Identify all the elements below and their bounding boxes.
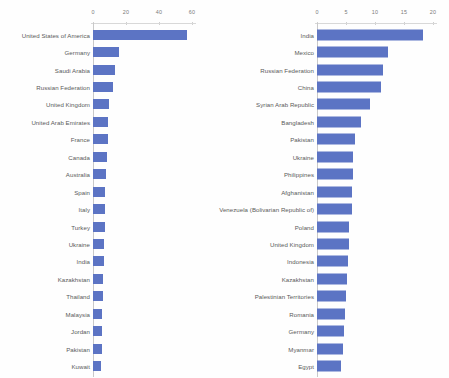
bar xyxy=(93,361,101,371)
bar xyxy=(93,152,107,162)
bar-row: Australia xyxy=(0,166,225,183)
category-label: Indonesia xyxy=(287,258,314,265)
x-axis-tick-label: 60 xyxy=(189,9,195,15)
bar-row: Germany xyxy=(0,43,225,60)
bar xyxy=(93,204,105,214)
x-axis-tick-label: 40 xyxy=(156,9,162,15)
bar-row: Indonesia xyxy=(225,253,449,270)
category-label: Australia xyxy=(66,171,90,178)
bar-row: France xyxy=(0,131,225,148)
axis-top-line xyxy=(91,23,196,24)
x-axis-tick-label: 0 xyxy=(91,9,94,15)
category-label: Russian Federation xyxy=(36,84,90,91)
bar xyxy=(317,169,353,180)
category-label: Spain xyxy=(74,188,90,195)
category-label: United States of America xyxy=(22,31,90,38)
bar xyxy=(93,309,102,319)
x-axis: 05101520 xyxy=(225,9,449,23)
category-label: Mexico xyxy=(294,49,314,56)
category-label: India xyxy=(77,258,90,265)
bar xyxy=(317,82,381,93)
bar xyxy=(317,204,352,215)
x-axis-tick-label: 15 xyxy=(401,9,407,15)
category-label: Malaysia xyxy=(66,310,90,317)
bar xyxy=(93,239,104,249)
category-label: Pakistan xyxy=(290,136,314,143)
category-label: Palestinian Territories xyxy=(255,293,314,300)
category-label: Canada xyxy=(68,153,90,160)
bar xyxy=(317,116,361,127)
bar-row: United Kingdom xyxy=(225,235,449,252)
category-label: United Arab Emirates xyxy=(31,118,90,125)
bar-row: Romania xyxy=(225,305,449,322)
bar-row: India xyxy=(0,253,225,270)
bar-row: United Kingdom xyxy=(0,96,225,113)
category-label: Poland xyxy=(295,223,314,230)
category-label: Ukraine xyxy=(293,153,314,160)
bar-row: Ukraine xyxy=(225,148,449,165)
category-label: Turkey xyxy=(71,223,90,230)
bar-row: Kuwait xyxy=(0,357,225,374)
category-label: China xyxy=(298,84,314,91)
x-axis-tick-label: 0 xyxy=(315,9,318,15)
category-label: Kazakhstan xyxy=(282,275,314,282)
bar xyxy=(317,343,343,354)
bar-row: Malaysia xyxy=(0,305,225,322)
category-label: Philippines xyxy=(284,171,314,178)
category-label: Kuwait xyxy=(71,363,90,370)
category-label: Romania xyxy=(289,310,314,317)
bar-row: China xyxy=(225,78,449,95)
bar xyxy=(317,308,345,319)
category-label: Bangladesh xyxy=(281,118,314,125)
bar-rows: United States of AmericaGermanySaudi Ara… xyxy=(0,26,225,375)
bar-row: Russian Federation xyxy=(225,61,449,78)
bar xyxy=(317,361,341,372)
bar xyxy=(317,99,370,110)
bar xyxy=(317,273,347,284)
x-axis-tick-label: 20 xyxy=(430,9,436,15)
bar xyxy=(317,64,383,75)
category-label: Germany xyxy=(65,49,90,56)
bar xyxy=(93,256,104,266)
bar-row: Palestinian Territories xyxy=(225,288,449,305)
bar xyxy=(93,344,102,354)
axis-top-line xyxy=(315,23,437,24)
bar xyxy=(317,326,344,337)
bar xyxy=(93,82,113,92)
bar xyxy=(317,134,355,145)
bar xyxy=(317,256,348,267)
bar xyxy=(317,238,349,249)
bar-row: Saudi Arabia xyxy=(0,61,225,78)
bar xyxy=(317,291,346,302)
category-label: Thailand xyxy=(66,293,90,300)
category-label: Germany xyxy=(289,328,314,335)
category-label: France xyxy=(71,136,90,143)
bar xyxy=(93,47,119,57)
category-label: United Kingdom xyxy=(270,240,314,247)
bar-row: Myanmar xyxy=(225,340,449,357)
category-label: Russian Federation xyxy=(260,66,314,73)
bar-row: Jordan xyxy=(0,322,225,339)
bar-row: Syrian Arab Republic xyxy=(225,96,449,113)
bar xyxy=(93,187,105,197)
bar-row: Thailand xyxy=(0,288,225,305)
bar-row: Egypt xyxy=(225,357,449,374)
bar xyxy=(317,186,352,197)
bar-row: United States of America xyxy=(0,26,225,43)
bar xyxy=(93,274,103,284)
bar-row: Germany xyxy=(225,322,449,339)
bar xyxy=(93,117,108,127)
bar xyxy=(93,291,103,301)
x-axis-tick-label: 20 xyxy=(123,9,129,15)
bar-row: United Arab Emirates xyxy=(0,113,225,130)
bar xyxy=(317,221,349,232)
bar-row: Venezuela (Bolivarian Republic of) xyxy=(225,200,449,217)
category-label: Pakistan xyxy=(66,345,90,352)
category-label: Myanmar xyxy=(288,345,314,352)
category-label: Venezuela (Bolivarian Republic of) xyxy=(219,206,314,213)
category-label: Ukraine xyxy=(69,240,90,247)
bar-row: Pakistan xyxy=(0,340,225,357)
category-label: Jordan xyxy=(71,328,90,335)
bar-row: Spain xyxy=(0,183,225,200)
bar-row: Kazakhstan xyxy=(0,270,225,287)
